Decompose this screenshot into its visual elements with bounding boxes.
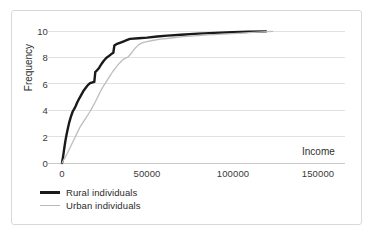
x-axis-title: Income bbox=[302, 146, 335, 157]
chart-page: 10 8 6 4 2 0 0 50000 100000 150000 Frequ… bbox=[0, 0, 374, 241]
series-line-urban bbox=[62, 31, 273, 163]
legend-line-swatch-urban bbox=[40, 205, 60, 206]
legend-label-urban: Urban individuals bbox=[66, 200, 141, 211]
chart-legend: Rural individuals Urban individuals bbox=[40, 186, 240, 212]
y-tick-label-2: 2 bbox=[26, 132, 48, 143]
y-axis-title: Frequency bbox=[23, 28, 34, 108]
series-line-rural bbox=[62, 31, 266, 163]
x-tick-label-100000: 100000 bbox=[206, 168, 260, 179]
legend-item-urban: Urban individuals bbox=[40, 199, 240, 212]
x-tick-label-0: 0 bbox=[42, 168, 82, 179]
x-tick-label-150000: 150000 bbox=[291, 168, 345, 179]
x-tick-label-50000: 50000 bbox=[122, 168, 172, 179]
legend-item-rural: Rural individuals bbox=[40, 186, 240, 199]
legend-line-swatch-rural bbox=[40, 191, 60, 193]
legend-label-rural: Rural individuals bbox=[66, 187, 137, 198]
